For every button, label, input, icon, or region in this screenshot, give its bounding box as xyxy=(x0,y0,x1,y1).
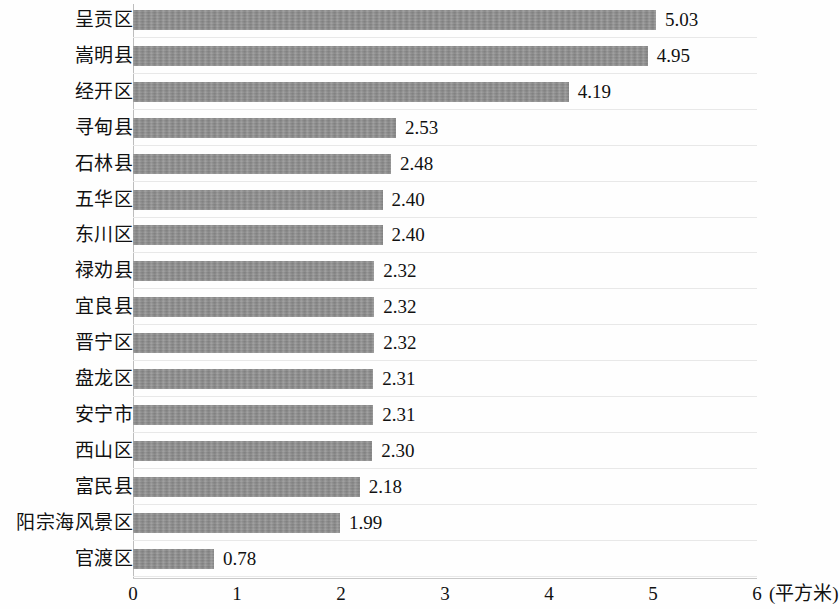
category-label: 禄劝县 xyxy=(0,261,133,281)
gridline xyxy=(133,396,757,397)
bar-value-label: 2.31 xyxy=(382,405,415,425)
bar xyxy=(133,46,648,66)
bar xyxy=(133,154,391,174)
category-label: 经开区 xyxy=(0,82,133,102)
gridline xyxy=(133,288,757,289)
category-label: 寻甸县 xyxy=(0,118,133,138)
bar-value-label: 0.78 xyxy=(223,549,256,569)
gridline xyxy=(133,468,757,469)
gridline xyxy=(133,109,757,110)
category-label: 宜良县 xyxy=(0,297,133,317)
bar xyxy=(133,118,396,138)
x-axis-tick-label: 3 xyxy=(425,583,465,605)
category-label: 呈贡区 xyxy=(0,10,133,30)
x-axis-unit-label: (平方米) xyxy=(769,583,839,605)
x-axis-tick-label: 4 xyxy=(529,583,569,605)
bar xyxy=(133,405,373,425)
bar-value-label: 2.32 xyxy=(383,261,416,281)
bar-value-label: 2.40 xyxy=(392,225,425,245)
gridline xyxy=(133,576,757,577)
x-axis-tick-label: 0 xyxy=(113,583,153,605)
bar xyxy=(133,549,214,569)
gridline xyxy=(133,432,757,433)
gridline xyxy=(133,37,757,38)
bar-value-label: 2.32 xyxy=(383,333,416,353)
category-label: 富民县 xyxy=(0,477,133,497)
category-label: 阳宗海风景区 xyxy=(0,513,133,533)
bar xyxy=(133,441,372,461)
bar xyxy=(133,225,383,245)
gridline xyxy=(133,324,757,325)
bar-chart: 5.034.954.192.532.482.402.402.322.322.32… xyxy=(0,0,840,609)
gridline xyxy=(133,540,757,541)
category-label: 石林县 xyxy=(0,154,133,174)
plot-area: 5.034.954.192.532.482.402.402.322.322.32… xyxy=(133,4,757,578)
bar-value-label: 2.18 xyxy=(369,477,402,497)
bar xyxy=(133,82,569,102)
category-label: 盘龙区 xyxy=(0,369,133,389)
gridline xyxy=(133,504,757,505)
bar-value-label: 1.99 xyxy=(349,513,382,533)
x-axis-line xyxy=(133,578,757,579)
bar-value-label: 2.48 xyxy=(400,154,433,174)
bar xyxy=(133,513,340,533)
x-axis-tick-label: 2 xyxy=(321,583,361,605)
category-label: 东川区 xyxy=(0,225,133,245)
bar-value-label: 2.40 xyxy=(392,190,425,210)
bar xyxy=(133,333,374,353)
bar xyxy=(133,10,656,30)
bar-value-label: 4.19 xyxy=(578,82,611,102)
bar xyxy=(133,369,373,389)
bar xyxy=(133,297,374,317)
bar-value-label: 2.53 xyxy=(405,118,438,138)
bar-value-label: 2.32 xyxy=(383,297,416,317)
gridline xyxy=(133,360,757,361)
x-axis-tick-label: 5 xyxy=(633,583,673,605)
category-label: 西山区 xyxy=(0,441,133,461)
gridline xyxy=(133,181,757,182)
bar xyxy=(133,190,383,210)
gridline xyxy=(133,73,757,74)
bar-value-label: 2.31 xyxy=(382,369,415,389)
category-label: 嵩明县 xyxy=(0,46,133,66)
category-label: 晋宁区 xyxy=(0,333,133,353)
bar-value-label: 4.95 xyxy=(657,46,690,66)
category-label: 五华区 xyxy=(0,190,133,210)
bar-value-label: 2.30 xyxy=(381,441,414,461)
bar xyxy=(133,477,360,497)
bar-value-label: 5.03 xyxy=(665,10,698,30)
bar xyxy=(133,261,374,281)
gridline xyxy=(133,145,757,146)
gridline xyxy=(133,252,757,253)
gridline xyxy=(133,217,757,218)
category-label: 安宁市 xyxy=(0,405,133,425)
x-axis-tick-label: 1 xyxy=(217,583,257,605)
category-label: 官渡区 xyxy=(0,549,133,569)
